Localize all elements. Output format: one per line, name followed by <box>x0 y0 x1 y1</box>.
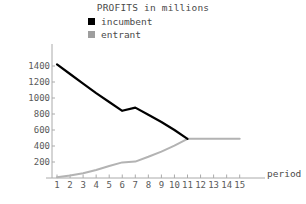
y-axis-tick-label: 1200 <box>20 78 50 87</box>
y-axis-tick-label: 1000 <box>20 94 50 103</box>
y-axis-tick-label: 200 <box>20 158 50 167</box>
y-axis-tick-label: 800 <box>20 110 50 119</box>
y-axis-tick-label: 600 <box>20 126 50 135</box>
y-axis-tick-label: 1400 <box>20 62 50 71</box>
series-line-incumbent <box>57 64 188 138</box>
series-line-entrant <box>57 139 240 177</box>
x-axis-tick-label: 15 <box>232 181 248 190</box>
x-axis-ticks <box>57 175 240 179</box>
chart-page: PROFITS in millions incumbent entrant 20… <box>0 0 306 204</box>
y-axis-tick-label: 400 <box>20 142 50 151</box>
x-axis-title: period <box>267 168 301 179</box>
